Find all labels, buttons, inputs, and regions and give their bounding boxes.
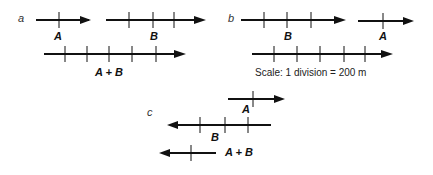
part-c-label: c [147, 106, 153, 118]
vector-diagram [0, 0, 433, 175]
scale-note: Scale: 1 division = 200 m [255, 67, 366, 78]
vector-a-resultant [44, 46, 186, 62]
part-b-label: b [228, 12, 234, 24]
part-a-label: a [18, 12, 24, 24]
vector-c-resultant-label: A + B [225, 146, 253, 158]
vector-c-B-label: B [211, 131, 219, 143]
vector-b-B-label: B [284, 30, 292, 42]
vector-b-B [241, 12, 346, 28]
vector-c-A [228, 91, 285, 107]
vector-a-resultant-label: A + B [95, 66, 123, 78]
vector-a-A-label: A [54, 30, 62, 42]
vector-b-A [358, 13, 414, 29]
vector-b-resultant [252, 46, 393, 62]
vector-a-B-label: B [150, 30, 158, 42]
vector-c-A-label: A [242, 103, 250, 115]
vector-c-B [167, 117, 271, 133]
vector-a-B [106, 12, 206, 28]
vector-a-A [36, 12, 91, 28]
vector-b-A-label: A [379, 30, 387, 42]
vector-c-resultant [159, 145, 216, 161]
